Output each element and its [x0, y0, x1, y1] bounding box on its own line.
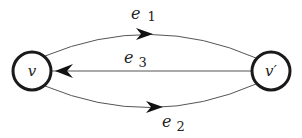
node-v-prime-label: v′ — [265, 62, 277, 80]
edge-label-e1: e 1 — [131, 4, 156, 24]
edge-label-e3: e 3 — [124, 48, 147, 70]
arrowhead-e1-icon — [136, 28, 153, 40]
arrowhead-e2-icon — [146, 101, 163, 113]
node-v-label: v — [28, 62, 37, 80]
graph-diagram: v v′ e 1 e 3 e 2 — [0, 0, 302, 138]
edge-label-e2: e 2 — [162, 112, 185, 134]
edge-e1 — [45, 34, 256, 58]
